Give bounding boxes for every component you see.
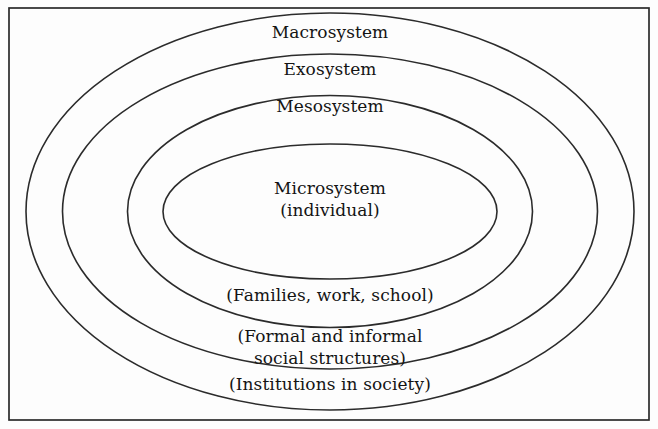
ring-label-exosystem: Exosystem [283,59,376,81]
ring-label-mesosystem: Mesosystem [276,96,384,118]
ring-label-macrosystem: Macrosystem [272,22,389,44]
diagram-canvas: Macrosystem Exosystem Mesosystem Microsy… [0,0,658,429]
ring-sublabel-mesosystem: (Families, work, school) [226,285,434,307]
ring-label-microsystem: Microsystem (individual) [274,177,386,221]
ring-sublabel-exosystem: (Formal and informal social structures) [237,325,422,369]
ring-sublabel-macrosystem: (Institutions in society) [229,374,431,396]
